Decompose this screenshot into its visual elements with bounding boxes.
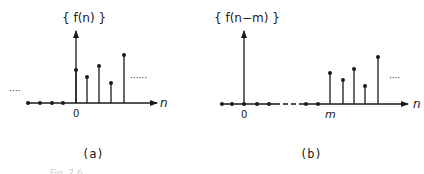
figure-caption: Fig. 7.6: [50, 168, 83, 174]
panel-b-right-ellipsis: ····: [389, 73, 400, 83]
panel-a-stem-dot: [109, 81, 113, 85]
panel-b-zero-sample-dot: [230, 102, 234, 106]
panel-b-zero-sample-dot: [255, 102, 259, 106]
panel-a-stem-dot: [74, 68, 78, 72]
panel-b-zero-sample-dot: [220, 102, 224, 106]
panel-a-origin-label: 0: [73, 108, 79, 119]
panel-a-stem-dot: [122, 53, 126, 57]
panel-a-zero-sample-dot: [26, 101, 30, 105]
panel-b-stem-dot: [328, 71, 332, 75]
panel-b-stem-dot: [352, 67, 356, 71]
panel-a-zero-sample-dot: [61, 101, 65, 105]
panel-a-right-ellipsis: ······: [130, 73, 147, 83]
panel-b-zero-sample-dot: [242, 102, 246, 106]
panel-a-stem-dot: [97, 64, 101, 68]
panel-b-origin-label: 0: [241, 109, 247, 120]
panel-a-zero-sample-dot: [38, 101, 42, 105]
panel-b-zero-sample-dot: [316, 102, 320, 106]
panel-a-stem-dot: [85, 75, 89, 79]
panel-b-stems: [328, 55, 380, 104]
panel-a-caption: (a): [82, 147, 104, 161]
panel-a-axis-label: n: [160, 96, 168, 110]
panel-b-stem-dot: [363, 84, 367, 88]
panel-a-title: { f(n) }: [62, 11, 106, 25]
panel-b-zero-sample-dot: [304, 102, 308, 106]
panel-b-stem-dot: [341, 78, 345, 82]
panel-b-caption: (b): [300, 147, 322, 161]
panel-a-stems: [74, 53, 126, 103]
panel-b-shift-label: m: [325, 108, 336, 121]
panel-a-left-ellipsis: ····: [9, 86, 20, 96]
diagram-canvas: { f(n) } n 0 ···· ······ (a) { f(n−m) } …: [0, 0, 424, 174]
panel-b-axis-label: n: [413, 97, 421, 111]
panel-b-stem-dot: [376, 55, 380, 59]
panel-b-zero-sample-dot: [267, 102, 271, 106]
panel-a-zero-sample-dot: [50, 101, 54, 105]
panel-b-title: { f(n−m) }: [214, 11, 280, 25]
panel-a: { f(n) } n 0 ···· ······ (a): [9, 11, 168, 161]
panel-b: { f(n−m) } n 0 m ···· (b): [214, 11, 421, 161]
